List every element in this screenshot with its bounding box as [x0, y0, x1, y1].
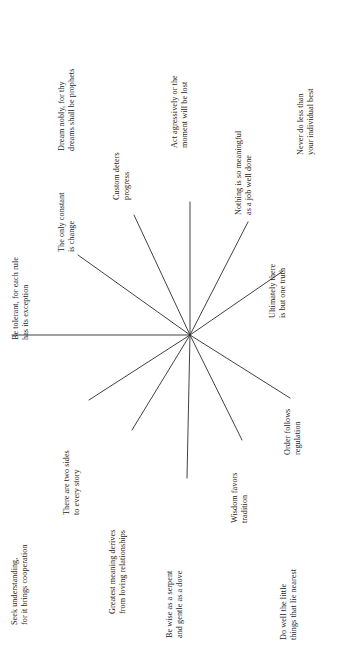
label-never-do-less-line2: your individual best	[306, 89, 316, 156]
label-ultimately-truth-line2: is but one truth	[278, 264, 288, 318]
label-be-tolerant-line2: has its exception	[21, 257, 31, 340]
spoke-greatest-meaning	[132, 335, 190, 430]
spoke-two-sides	[89, 335, 190, 400]
label-ultimately-truth-line1: Ultimately there	[268, 264, 278, 318]
label-seek-understanding-line1: Seek understanding,	[10, 544, 20, 625]
label-greatest-meaning-line1: Greatest meaning derives	[108, 530, 118, 614]
label-order-regulation-line1: Order follows	[283, 409, 293, 455]
label-nothing-meaningful: Nothing is so meaningful as a job well d…	[234, 131, 255, 215]
label-custom-deters-line2: progress	[122, 152, 132, 200]
label-greatest-meaning: Greatest meaning derives from loving rel…	[108, 530, 129, 614]
spoke-custom-deters	[134, 215, 190, 335]
label-never-do-less-line1: Never do less than	[296, 89, 306, 156]
label-dream-nobly: Dream nobly, for thy dreams shall be pro…	[57, 69, 78, 151]
label-be-tolerant-line1: Be tolerant, for each rule	[11, 257, 21, 340]
label-be-wise-serpent-line1: Be wise as a serpent	[165, 571, 175, 638]
label-custom-deters-line1: Custom deters	[112, 152, 122, 200]
label-only-constant-line1: The only constant	[57, 192, 67, 252]
label-custom-deters: Custom deters progress	[112, 152, 133, 200]
spoke-wisdom-tradition	[190, 335, 242, 440]
label-dream-nobly-line1: Dream nobly, for thy	[57, 69, 67, 151]
label-wisdom-tradition-line2: tradition	[240, 472, 250, 523]
label-nothing-meaningful-line1: Nothing is so meaningful	[234, 131, 244, 215]
label-ultimately-truth: Ultimately there is but one truth	[268, 264, 289, 318]
label-act-agressively: Act agressively or the moment will be lo…	[170, 75, 191, 148]
label-two-sides: There are two sides to every story	[62, 450, 83, 515]
label-nothing-meaningful-line2: as a job well done	[244, 131, 254, 215]
label-seek-understanding-line2: for it brings cooperation	[20, 544, 30, 625]
figure-canvas: Act agressively or the moment will be lo…	[0, 0, 353, 651]
label-wisdom-tradition: Wisdom favors tradition	[230, 472, 251, 523]
label-two-sides-line1: There are two sides	[62, 450, 72, 515]
label-act-agressively-line2: moment will be lost	[180, 75, 190, 148]
label-act-agressively-line1: Act agressively or the	[170, 75, 180, 148]
label-seek-understanding: Seek understanding, for it brings cooper…	[10, 544, 31, 625]
label-be-wise-serpent-line2: and gentle as a dove	[175, 571, 185, 638]
label-order-regulation: Order follows regulation	[283, 409, 304, 455]
label-order-regulation-line2: regulation	[293, 409, 303, 455]
spoke-be-wise-serpent	[187, 335, 190, 478]
label-be-wise-serpent: Be wise as a serpent and gentle as a dov…	[165, 571, 186, 638]
label-two-sides-line2: to every story	[72, 450, 82, 515]
label-only-constant: The only constant is change	[57, 192, 78, 252]
label-wisdom-tradition-line1: Wisdom favors	[230, 472, 240, 523]
label-do-well-little-line2: things that lie nearest	[289, 569, 299, 640]
label-be-tolerant: Be tolerant, for each rule has its excep…	[11, 257, 32, 340]
label-only-constant-line2: is change	[67, 192, 77, 252]
spoke-order-regulation	[190, 335, 290, 398]
label-greatest-meaning-line2: from loving relationships	[118, 530, 128, 614]
label-do-well-little: Do well the little things that lie neare…	[279, 569, 300, 640]
label-dream-nobly-line2: dreams shall be prophets	[67, 69, 77, 151]
label-never-do-less: Never do less than your individual best	[296, 89, 317, 156]
spoke-only-constant	[78, 255, 190, 335]
spoke-nothing-meaningful	[190, 222, 248, 335]
label-do-well-little-line1: Do well the little	[279, 569, 289, 640]
